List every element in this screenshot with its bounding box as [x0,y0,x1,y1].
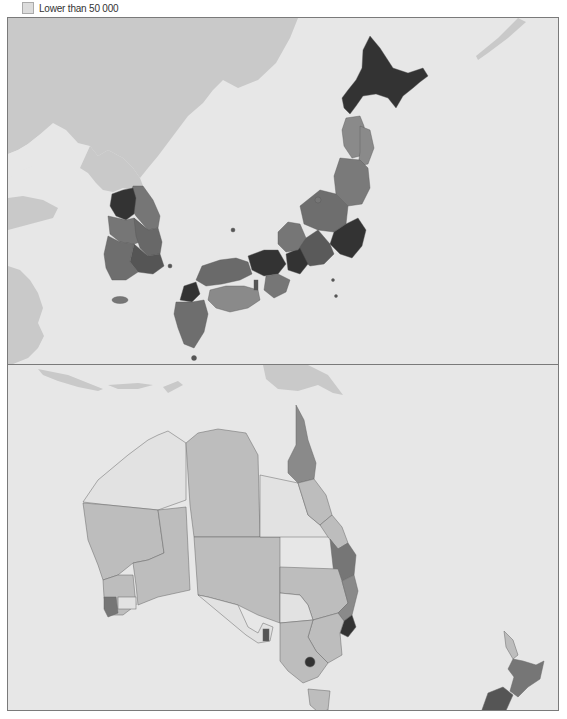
australia-nz-map [8,365,559,711]
awaji [254,280,258,290]
izu-islands [332,279,335,282]
wa-wheatbelt [118,597,136,609]
legend-swatch-lowest [22,2,34,14]
adelaide [263,629,269,641]
jeju [112,297,128,304]
tsushima [168,264,172,268]
melbourne [305,657,315,667]
sado [315,197,321,203]
japan-korea-map [8,18,559,365]
map-legend: Lower than 50 000 [22,1,118,15]
map-panel-japan-korea [7,17,559,365]
nt [186,429,260,537]
oki [231,228,235,232]
legend-label-lowest: Lower than 50 000 [39,3,118,14]
map-panel-australia-nz [7,364,559,711]
